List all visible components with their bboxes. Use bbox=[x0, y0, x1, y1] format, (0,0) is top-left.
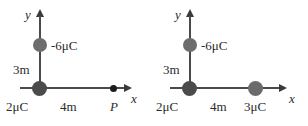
x-axis-label: x bbox=[289, 92, 295, 105]
distance-label-4m: 4m bbox=[210, 100, 227, 113]
diagram-right: y x -6μC 3m 2μC 4m 3μC bbox=[154, 0, 308, 126]
y-axis-line bbox=[39, 16, 41, 88]
charge-label-negative-6uc: -6μC bbox=[51, 39, 77, 52]
distance-label-3m: 3m bbox=[163, 63, 180, 76]
figure-canvas: y x -6μC 3m 2μC 4m P y x -6μC 3m bbox=[0, 0, 308, 126]
charge-marker-2uc bbox=[32, 81, 47, 96]
charge-label-2uc: 2μC bbox=[6, 100, 28, 113]
x-axis-arrow-icon bbox=[279, 84, 287, 92]
charge-marker-2uc bbox=[182, 81, 197, 96]
y-axis-label: y bbox=[25, 8, 31, 21]
y-axis-label: y bbox=[175, 8, 181, 21]
charge-label-2uc: 2μC bbox=[156, 100, 178, 113]
charge-marker-3uc bbox=[248, 81, 263, 96]
field-point-marker-p bbox=[110, 85, 117, 92]
charge-marker-negative-6uc bbox=[183, 38, 197, 52]
y-axis-line bbox=[189, 16, 191, 88]
charge-marker-negative-6uc bbox=[33, 38, 47, 52]
field-point-label-p: P bbox=[110, 100, 118, 113]
charge-label-negative-6uc: -6μC bbox=[201, 39, 227, 52]
distance-label-3m: 3m bbox=[13, 63, 30, 76]
x-axis-label: x bbox=[131, 92, 137, 105]
charge-label-3uc: 3μC bbox=[244, 100, 266, 113]
diagram-left: y x -6μC 3m 2μC 4m P bbox=[0, 0, 154, 126]
distance-label-4m: 4m bbox=[60, 100, 77, 113]
